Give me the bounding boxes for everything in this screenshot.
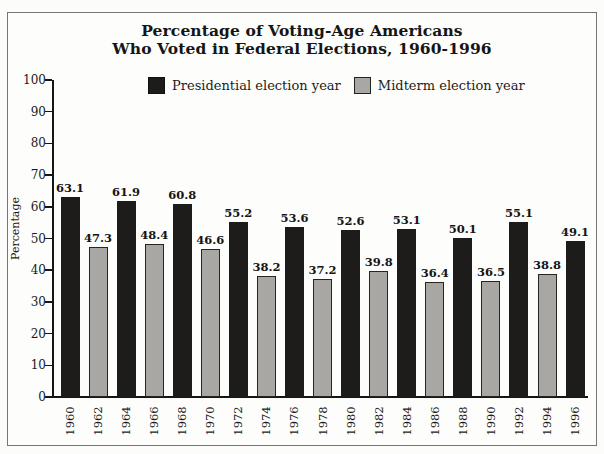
bar-1986 [425,282,444,397]
figure-page: Percentage of Voting-Age Americans Who V… [0,0,604,454]
y-tick [45,396,52,398]
y-tick [45,333,52,335]
x-tick-label: 1992 [511,401,527,441]
x-tick-label: 1988 [455,401,471,441]
bar-value-label: 38.2 [242,260,290,274]
y-tick-label: 100 [6,73,46,87]
y-tick-label: 20 [6,327,46,341]
bar-1990 [481,281,500,397]
bar-value-label: 49.1 [551,225,599,239]
bar-value-label: 61.9 [102,185,150,199]
y-tick-label: 10 [6,358,46,372]
x-tick-label: 1974 [258,401,274,441]
x-tick-label: 1990 [483,401,499,441]
bar-value-label: 36.5 [467,265,515,279]
chart-title: Percentage of Voting-Age Americans Who V… [0,22,604,58]
y-tick [45,143,52,145]
x-tick-label: 1966 [146,401,162,441]
x-tick-label: 1970 [202,401,218,441]
y-tick [45,301,52,303]
x-tick-label: 1994 [539,401,555,441]
y-tick [45,111,52,113]
bar-value-label: 37.2 [299,263,347,277]
bar-1966 [145,244,164,397]
legend-label-presidential: Presidential election year [172,78,341,93]
x-tick-label: 1986 [427,401,443,441]
x-tick-label: 1972 [230,401,246,441]
x-tick-label: 1976 [286,401,302,441]
y-tick [45,79,52,81]
bar-value-label: 55.2 [214,206,262,220]
bar-1996 [566,241,585,397]
bar-value-label: 60.8 [158,188,206,202]
y-tick [45,269,52,271]
bar-value-label: 53.1 [383,213,431,227]
midterm-swatch-icon [354,77,371,94]
x-tick-label: 1982 [371,401,387,441]
legend-item-presidential: Presidential election year [148,77,341,94]
y-tick-label: 60 [6,200,46,214]
chart-title-line2: Who Voted in Federal Elections, 1960-199… [0,40,604,58]
legend-label-midterm: Midterm election year [378,78,525,93]
bar-1982 [369,271,388,397]
bar-1972 [229,222,248,397]
bar-1992 [509,222,528,397]
y-tick-label: 70 [6,168,46,182]
y-tick [45,206,52,208]
bar-1984 [397,229,416,397]
x-tick-label: 1978 [315,401,331,441]
bar-1976 [285,227,304,397]
x-tick-label: 1996 [567,401,583,441]
x-tick-label: 1968 [174,401,190,441]
y-tick [45,238,52,240]
legend: Presidential election year Midterm elect… [148,77,525,94]
bar-value-label: 52.6 [327,214,375,228]
bar-1970 [201,249,220,397]
bar-1978 [313,279,332,397]
x-tick-label: 1962 [90,401,106,441]
y-tick [45,365,52,367]
presidential-swatch-icon [148,77,165,94]
bar-value-label: 50.1 [439,222,487,236]
bar-1994 [538,274,557,397]
y-axis-title: Percentage [8,184,23,274]
y-tick-label: 0 [6,390,46,404]
bar-value-label: 36.4 [411,266,459,280]
x-tick-label: 1960 [62,401,78,441]
x-tick-label: 1964 [118,401,134,441]
legend-item-midterm: Midterm election year [354,77,525,94]
bar-value-label: 53.6 [270,211,318,225]
bar-value-label: 38.8 [523,258,571,272]
bar-value-label: 47.3 [74,231,122,245]
y-tick-label: 30 [6,295,46,309]
bar-1960 [61,197,80,397]
x-tick-label: 1980 [343,401,359,441]
bar-1962 [89,247,108,397]
y-tick-label: 90 [6,105,46,119]
y-axis-line [52,80,54,398]
bar-1974 [257,276,276,397]
y-tick-label: 80 [6,136,46,150]
bar-value-label: 46.6 [186,233,234,247]
bar-value-label: 39.8 [355,255,403,269]
bar-value-label: 48.4 [130,228,178,242]
y-tick-label: 50 [6,232,46,246]
chart-title-line1: Percentage of Voting-Age Americans [0,22,604,40]
bar-1988 [453,238,472,397]
y-tick [45,174,52,176]
y-tick-label: 40 [6,263,46,277]
bar-value-label: 63.1 [46,181,94,195]
x-tick-label: 1984 [399,401,415,441]
bar-value-label: 55.1 [495,206,543,220]
